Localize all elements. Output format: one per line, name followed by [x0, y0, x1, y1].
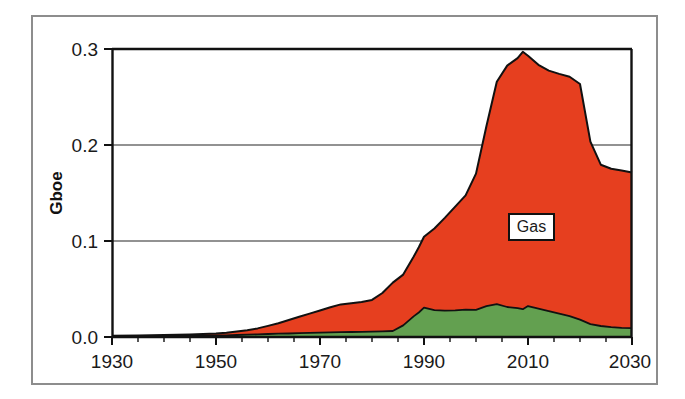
y-axis-title: Gboe [47, 171, 66, 214]
y-tick-label-0.1: 0.1 [72, 231, 98, 252]
y-tick-label-0.0: 0.0 [72, 327, 98, 348]
x-tick-label-1930: 1930 [91, 351, 133, 372]
chart-canvas: 0.3 0.2 0.1 0.0 1930 1950 1970 1990 2010… [0, 0, 685, 399]
y-tick-label-0.3: 0.3 [72, 39, 98, 60]
x-tick-label-1950: 1950 [195, 351, 237, 372]
y-axis-ticks [104, 49, 112, 337]
stacked-area-chart: 0.3 0.2 0.1 0.0 1930 1950 1970 1990 2010… [0, 0, 685, 399]
figure-root: 0.3 0.2 0.1 0.0 1930 1950 1970 1990 2010… [0, 0, 685, 399]
x-tick-label-1990: 1990 [403, 351, 445, 372]
x-tick-label-2030: 2030 [609, 351, 651, 372]
y-tick-label-0.2: 0.2 [72, 135, 98, 156]
annotation-gas: Gas [509, 214, 554, 240]
x-tick-label-1970: 1970 [299, 351, 341, 372]
annotation-gas-label: Gas [517, 218, 546, 235]
x-tick-label-2010: 2010 [507, 351, 549, 372]
